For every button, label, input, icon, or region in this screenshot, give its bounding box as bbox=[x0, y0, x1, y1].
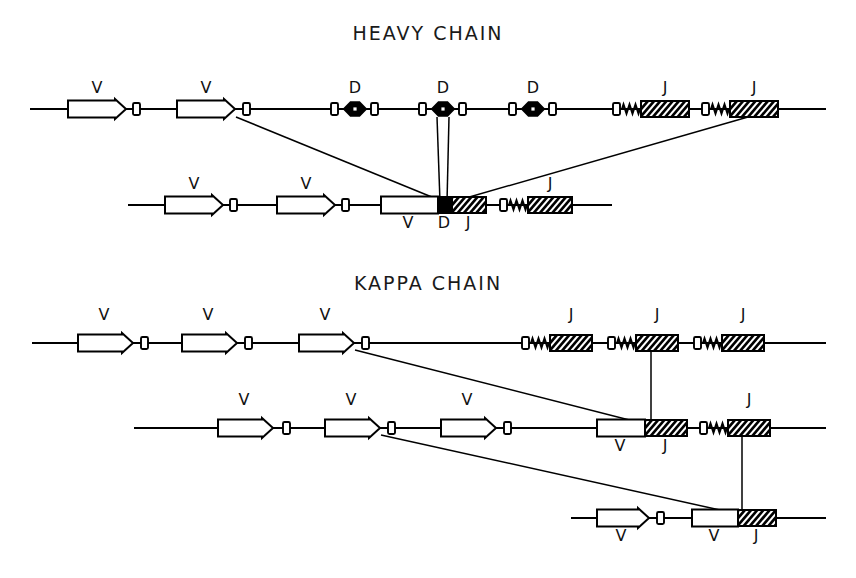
rss-signal-box bbox=[613, 103, 620, 115]
rss-signal-box bbox=[243, 103, 250, 115]
v-segment-box bbox=[78, 333, 133, 353]
v-segment-box bbox=[182, 333, 237, 353]
spring-spacer bbox=[622, 105, 640, 114]
fused-d-box bbox=[438, 197, 452, 213]
rss-signal-box bbox=[500, 199, 507, 211]
chromosome-row-kappa-rearranged-2 bbox=[571, 508, 826, 528]
fused-label-j: J bbox=[465, 213, 471, 232]
recombination-connector bbox=[236, 117, 444, 202]
chromosome-rows bbox=[30, 99, 826, 528]
segment-label-v: V bbox=[616, 526, 627, 545]
segment-label-v: V bbox=[462, 390, 473, 409]
v-segment-box bbox=[441, 418, 496, 438]
fused-label-v: V bbox=[615, 436, 626, 455]
rss-signal-box bbox=[419, 103, 426, 115]
rss-signal-box bbox=[459, 103, 466, 115]
v-segment-box bbox=[277, 195, 335, 215]
fused-v-box bbox=[692, 510, 738, 527]
chromosome-row-heavy-rearranged bbox=[128, 195, 612, 215]
spring-spacer bbox=[509, 201, 527, 210]
rss-signal-box bbox=[694, 337, 701, 349]
v-segment-box bbox=[597, 508, 649, 528]
vdj-recombination-figure: HEAVY CHAIN KAPPA CHAIN VVDDDJJVVVDJJVVV… bbox=[0, 0, 856, 578]
recombination-connector bbox=[447, 117, 449, 202]
v-segment-box bbox=[325, 418, 380, 438]
segment-label-v: V bbox=[201, 78, 212, 97]
rss-signal-box bbox=[342, 199, 349, 211]
segment-label-d: D bbox=[437, 78, 449, 97]
d-segment-core bbox=[353, 107, 356, 110]
fused-label-v: V bbox=[403, 213, 414, 232]
recombination-connector bbox=[437, 117, 440, 202]
rss-signal-box bbox=[371, 103, 378, 115]
fused-label-j: J bbox=[753, 526, 759, 545]
segment-label-j: J bbox=[662, 78, 668, 97]
segment-label-v: V bbox=[92, 78, 103, 97]
fused-label-d: D bbox=[438, 213, 450, 232]
fused-label-j: J bbox=[662, 436, 668, 455]
v-segment-box bbox=[218, 418, 273, 438]
kappa-chain-title: KAPPA CHAIN bbox=[354, 272, 502, 294]
segment-labels: VVDDDJJVVVDJJVVVJJJVVVVJJVVJ bbox=[92, 78, 759, 545]
segment-label-v: V bbox=[189, 174, 200, 193]
rss-signal-box bbox=[245, 337, 252, 349]
spring-spacer bbox=[709, 424, 727, 433]
segment-label-j: J bbox=[740, 305, 746, 324]
segment-label-v: V bbox=[99, 305, 110, 324]
rss-signal-box bbox=[133, 103, 140, 115]
segment-label-j: J bbox=[751, 78, 757, 97]
segment-label-v: V bbox=[203, 305, 214, 324]
connector-lines bbox=[236, 117, 748, 514]
rss-signal-box bbox=[702, 103, 709, 115]
fused-v-box bbox=[597, 420, 645, 437]
rss-signal-box bbox=[283, 422, 290, 434]
rss-signal-box bbox=[657, 512, 664, 524]
heavy-chain-title: HEAVY CHAIN bbox=[352, 22, 503, 44]
segment-label-j: J bbox=[654, 305, 660, 324]
segment-label-j: J bbox=[746, 390, 752, 409]
segment-label-v: V bbox=[301, 174, 312, 193]
spring-spacer bbox=[703, 339, 721, 348]
d-segment-core bbox=[531, 107, 534, 110]
spring-spacer bbox=[617, 339, 635, 348]
rss-signal-box bbox=[388, 422, 395, 434]
chromosome-row-kappa-germline bbox=[32, 333, 826, 353]
rss-signal-box bbox=[331, 103, 338, 115]
v-segment-box bbox=[68, 99, 126, 119]
spring-spacer bbox=[711, 105, 729, 114]
rss-signal-box bbox=[522, 337, 529, 349]
recombination-connector bbox=[355, 350, 645, 424]
rss-signal-box bbox=[608, 337, 615, 349]
rss-signal-box bbox=[509, 103, 516, 115]
rss-signal-box bbox=[549, 103, 556, 115]
recombination-connector bbox=[452, 117, 748, 202]
rss-signal-box bbox=[230, 199, 237, 211]
rss-signal-box bbox=[700, 422, 707, 434]
fused-v-box bbox=[381, 197, 438, 214]
chromosome-row-kappa-rearranged-1 bbox=[134, 418, 826, 438]
segment-label-d: D bbox=[527, 78, 539, 97]
spring-spacer bbox=[531, 339, 549, 348]
d-segment-core bbox=[441, 107, 444, 110]
segment-label-d: D bbox=[349, 78, 361, 97]
rss-signal-box bbox=[362, 337, 369, 349]
v-segment-box bbox=[177, 99, 235, 119]
v-segment-box bbox=[299, 333, 354, 353]
chromosome-row-heavy-germline bbox=[30, 99, 826, 119]
segment-label-j: J bbox=[568, 305, 574, 324]
fused-label-v: V bbox=[709, 526, 720, 545]
figure-canvas: HEAVY CHAIN KAPPA CHAIN VVDDDJJVVVDJJVVV… bbox=[0, 0, 856, 578]
rss-signal-box bbox=[141, 337, 148, 349]
segment-label-v: V bbox=[239, 390, 250, 409]
rss-signal-box bbox=[504, 422, 511, 434]
v-segment-box bbox=[165, 195, 223, 215]
segment-label-v: V bbox=[346, 390, 357, 409]
segment-label-j: J bbox=[547, 174, 553, 193]
segment-label-v: V bbox=[320, 305, 331, 324]
recombination-connector bbox=[381, 435, 738, 514]
